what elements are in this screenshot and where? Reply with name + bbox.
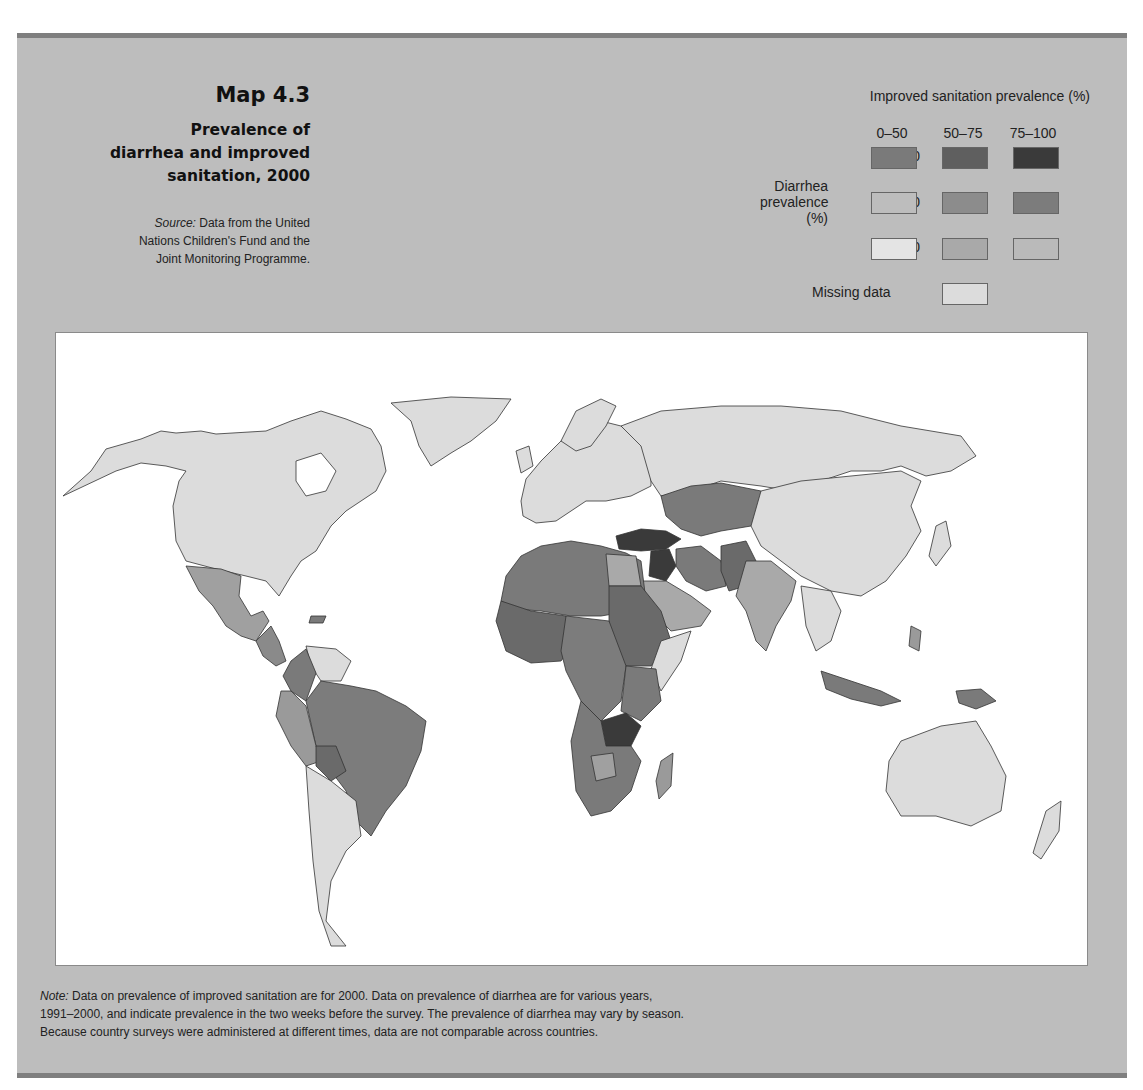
region-india <box>736 561 796 651</box>
swatch-r0c1 <box>942 147 988 169</box>
region-east-africa <box>621 666 661 721</box>
region-madagascar <box>656 753 673 799</box>
legend-col-0: 0–50 <box>857 125 927 141</box>
swatch-r1c2 <box>1013 192 1059 214</box>
swatch-r1c0 <box>871 192 917 214</box>
legend-col-1: 50–75 <box>928 125 998 141</box>
region-iran <box>676 546 726 591</box>
region-egypt <box>606 554 641 586</box>
legend-axis-label: Diarrhea prevalence (%) <box>760 178 828 226</box>
region-indonesia <box>821 671 901 706</box>
region-japan <box>929 521 951 566</box>
region-png <box>956 689 996 709</box>
region-philippines <box>909 626 921 651</box>
map-title: Prevalence of diarrhea and improved sani… <box>40 119 310 188</box>
swatch-r1c1 <box>942 192 988 214</box>
swatch-r2c1 <box>942 238 988 260</box>
frame-bottom-rule <box>17 1073 1127 1078</box>
world-map-svg <box>56 333 1088 966</box>
legend-title: Improved sanitation prevalence (%) <box>870 88 1090 104</box>
swatch-r0c0 <box>871 147 917 169</box>
title-block: Map 4.3 Prevalence of diarrhea and impro… <box>40 82 310 268</box>
swatch-r2c2 <box>1013 238 1059 260</box>
legend: Improved sanitation prevalence (%) 0–50 … <box>760 88 1100 318</box>
region-uk <box>516 446 533 473</box>
map-number: Map 4.3 <box>40 82 310 108</box>
legend-col-2: 75–100 <box>998 125 1068 141</box>
frame-top-rule <box>17 33 1127 38</box>
region-australia <box>886 721 1006 826</box>
note-text: Note: Data on prevalence of improved san… <box>40 987 1100 1041</box>
region-new-zealand <box>1033 801 1061 859</box>
region-caribbean <box>309 616 326 623</box>
region-greenland <box>391 397 511 466</box>
region-iraq <box>649 549 676 581</box>
swatch-r0c2 <box>1013 147 1059 169</box>
legend-missing-label: Missing data <box>812 284 891 300</box>
swatch-r2c0 <box>871 238 917 260</box>
region-north-america <box>63 411 386 596</box>
region-southeast-asia <box>801 586 841 651</box>
swatch-missing <box>942 283 988 305</box>
source-text: Source: Data from the United Nations Chi… <box>40 214 310 268</box>
world-map <box>55 332 1088 966</box>
region-turkey <box>616 529 681 551</box>
